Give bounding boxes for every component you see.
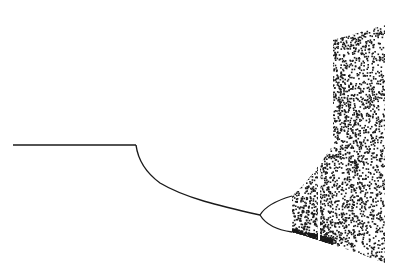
period-two-lower	[260, 215, 292, 232]
period-two-upper	[260, 196, 292, 215]
chaotic-region	[290, 25, 388, 267]
bifurcation-diagram	[0, 0, 401, 270]
stable-branch-curve	[136, 145, 260, 215]
periodic-window-gap	[318, 150, 320, 240]
